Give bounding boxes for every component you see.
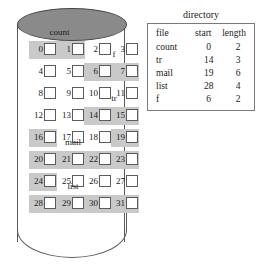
block-square-icon [72, 197, 84, 209]
block-square-icon [126, 131, 138, 143]
block-number-label: 5 [60, 66, 71, 77]
block-square-icon [126, 153, 138, 165]
cell-file: mail [148, 67, 195, 80]
block-square-icon [44, 43, 56, 55]
block-square-icon [72, 109, 84, 121]
column-header-file: file [148, 27, 195, 41]
column-header-length: length [222, 27, 254, 41]
cell-length: 6 [222, 67, 254, 80]
disk-block-cell[interactable]: 20 [32, 152, 59, 168]
block-number-label: 4 [32, 66, 43, 77]
block-number-label: 15 [114, 110, 125, 121]
block-square-icon [99, 197, 111, 209]
cell-file: count [148, 41, 195, 54]
block-number-label: 12 [32, 110, 43, 121]
block-square-icon [44, 197, 56, 209]
disk-block-cell[interactable]: 21 [60, 152, 87, 168]
block-square-icon [72, 153, 84, 165]
cell-length: 2 [222, 93, 254, 106]
disk-block-cell[interactable]: 22 [87, 152, 114, 168]
table-header-row: file start length [148, 27, 254, 41]
file-name-label: tr [87, 93, 141, 104]
table-row[interactable]: list284 [148, 80, 254, 93]
block-number-label: 20 [32, 154, 43, 165]
directory-table: file start length count02tr143mail196lis… [148, 27, 254, 106]
disk-block-cell[interactable]: 27 [114, 174, 141, 190]
block-number-label: 21 [60, 154, 71, 165]
disk-cylinder-figure: count0123f4567891011tr1213141516171819ma… [14, 2, 130, 270]
disk-block-cell[interactable]: 1 [60, 42, 87, 58]
file-name-label: mail [32, 137, 114, 148]
block-number-label: 0 [32, 44, 43, 55]
block-number-label: 29 [60, 198, 71, 209]
cell-start: 14 [195, 54, 222, 67]
disk-block-cell[interactable]: 19 [114, 130, 141, 146]
block-square-icon [72, 43, 84, 55]
block-number-label: 30 [87, 198, 98, 209]
block-square-icon [44, 153, 56, 165]
disk-block-cell[interactable]: 5 [60, 64, 87, 80]
block-square-icon [126, 109, 138, 121]
disk-block-cell[interactable]: 30 [87, 196, 114, 212]
disk-block-cell[interactable]: 8 [32, 86, 59, 102]
disk-block-row: list28293031 [14, 192, 130, 214]
cell-length: 4 [222, 80, 254, 93]
disk-block-cell[interactable]: 28 [32, 196, 59, 212]
disk-block-cell[interactable]: 6 [87, 64, 114, 80]
cell-start: 28 [195, 80, 222, 93]
block-number-label: 22 [87, 154, 98, 165]
disk-block-row: f4567 [14, 60, 130, 82]
table-row[interactable]: tr143 [148, 54, 254, 67]
cell-length: 3 [222, 54, 254, 67]
disk-block-cell[interactable]: 12 [32, 108, 59, 124]
disk-block-cell[interactable]: 29 [60, 196, 87, 212]
block-number-label: 8 [32, 88, 43, 99]
block-number-label: 6 [87, 66, 98, 77]
directory-table-body: count02tr143mail196list284f62 [148, 41, 254, 106]
block-square-icon [99, 109, 111, 121]
block-square-icon [99, 65, 111, 77]
disk-block-cell[interactable]: 15 [114, 108, 141, 124]
cell-start: 6 [195, 93, 222, 106]
table-row[interactable]: f62 [148, 93, 254, 106]
block-number-label: 28 [32, 198, 43, 209]
block-square-icon [44, 109, 56, 121]
directory-table-frame: file start length count02tr143mail196lis… [147, 23, 255, 111]
column-header-start: start [195, 27, 222, 41]
block-number-label: 31 [114, 198, 125, 209]
cell-file: f [148, 93, 195, 106]
disk-block-cell[interactable]: 31 [114, 196, 141, 212]
block-number-label: 19 [114, 132, 125, 143]
disk-block-grid: count0123f4567891011tr1213141516171819ma… [14, 38, 130, 214]
block-number-label: 27 [114, 176, 125, 187]
cell-file: tr [148, 54, 195, 67]
cell-length: 2 [222, 41, 254, 54]
disk-block-cell[interactable]: 14 [87, 108, 114, 124]
block-number-label: 1 [60, 44, 71, 55]
disk-block-cell[interactable]: 0 [32, 42, 59, 58]
block-number-label: 13 [60, 110, 71, 121]
disk-block-cell[interactable]: 9 [60, 86, 87, 102]
block-square-icon [44, 87, 56, 99]
disk-block-row: mail20212223 [14, 148, 130, 170]
block-number-label: 9 [60, 88, 71, 99]
directory-caption: directory [147, 8, 255, 21]
block-square-icon [126, 175, 138, 187]
disk-block-cell[interactable]: 4 [32, 64, 59, 80]
block-square-icon [99, 153, 111, 165]
disk-block-cell[interactable]: 23 [114, 152, 141, 168]
disk-block-cell[interactable]: 13 [60, 108, 87, 124]
cell-start: 0 [195, 41, 222, 54]
block-number-label: 7 [114, 66, 125, 77]
block-square-icon [126, 65, 138, 77]
block-square-icon [72, 65, 84, 77]
file-name-label: f [87, 49, 141, 60]
file-name-label: list [32, 181, 114, 192]
disk-block-cell[interactable]: 7 [114, 64, 141, 80]
cell-file: list [148, 80, 195, 93]
cell-start: 19 [195, 67, 222, 80]
table-row[interactable]: count02 [148, 41, 254, 54]
directory-panel: directory file start length count02tr143… [147, 8, 255, 111]
block-square-icon [44, 65, 56, 77]
table-row[interactable]: mail196 [148, 67, 254, 80]
